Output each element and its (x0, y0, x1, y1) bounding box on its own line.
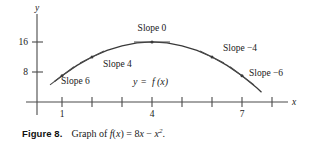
x-tick-label-1: 1 (60, 109, 65, 119)
slope-label-6: Slope 6 (61, 76, 90, 86)
y-tick-label-16: 16 (19, 37, 29, 47)
slope-label-neg-6: Slope −6 (249, 68, 283, 78)
slope-label-neg-4: Slope −4 (223, 43, 257, 53)
curve-label-equals: = (141, 77, 146, 87)
point-x7 (241, 74, 244, 77)
plot-area: x y 1 4 7 8 16 (0, 0, 310, 120)
point-x6 (211, 56, 214, 59)
x-tick-label-7: 7 (240, 109, 245, 119)
x-axis-label: x (291, 97, 297, 107)
slope-label-0: Slope 0 (138, 23, 167, 33)
curve-label-f: f (152, 76, 156, 87)
curve-label-y: y (132, 76, 138, 87)
curve-function-label: y = f (x) (132, 76, 169, 88)
caption-fn-name: f (110, 128, 113, 139)
y-tick-label-8: 8 (23, 67, 28, 77)
point-x2 (91, 56, 94, 59)
point-x4 (151, 41, 154, 44)
figure-caption-text: Graph of f(x) = 8x − x2. (72, 127, 165, 139)
caption-period: . (162, 128, 165, 139)
x-tick-label-4: 4 (150, 109, 155, 119)
figure-number-label: Figure 8. (22, 128, 63, 139)
y-axis-label: y (34, 3, 40, 13)
caption-prefix: Graph of (72, 128, 110, 139)
figure-caption: Figure 8. Graph of f(x) = 8x − x2. (0, 120, 310, 146)
caption-fn-arg: x (116, 128, 120, 139)
graph-svg: x y 1 4 7 8 16 (0, 0, 310, 120)
slope-label-4: Slope 4 (103, 59, 132, 69)
curve-label-paren: (x) (157, 76, 169, 88)
figure-container: x y 1 4 7 8 16 (0, 0, 310, 146)
caption-equals: = 8 (124, 128, 140, 139)
caption-minus: − (144, 128, 155, 139)
